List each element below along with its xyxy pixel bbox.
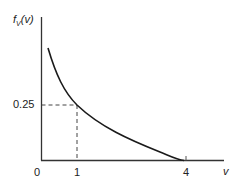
x-tick-label-0: 0 xyxy=(34,167,40,178)
x-axis-label: v xyxy=(223,166,229,177)
x-tick-label-4: 4 xyxy=(183,167,189,178)
density-curve xyxy=(48,48,184,161)
y-axis-label: fV(v) xyxy=(13,14,34,27)
x-tick-label-1: 1 xyxy=(74,167,80,178)
y-tick-label: 0.25 xyxy=(13,99,34,110)
chart-plot xyxy=(0,0,238,187)
chart: fV(v) 0.25 0 1 4 v xyxy=(0,0,238,187)
